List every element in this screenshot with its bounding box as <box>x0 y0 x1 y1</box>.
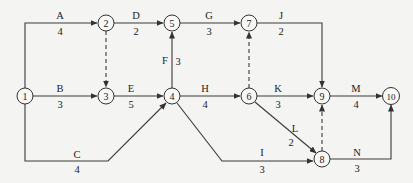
label-A-name: A <box>56 10 64 21</box>
label-L-name: L <box>292 123 298 134</box>
node-8: 8 <box>314 151 330 167</box>
label-L-duration: 2 <box>288 137 293 148</box>
svg-text:9: 9 <box>320 91 325 102</box>
svg-text:4: 4 <box>170 91 175 102</box>
label-M-name: M <box>351 83 361 94</box>
diagram-canvas: A 4 B 3 C 4 D 2 E 5 F 3 G 3 H 4 I 3 J 2 … <box>0 0 413 183</box>
label-C-name: C <box>73 149 80 160</box>
node-7: 7 <box>241 15 257 31</box>
edge-L <box>255 102 316 153</box>
svg-text:5: 5 <box>170 18 175 29</box>
label-I-name: I <box>260 147 264 158</box>
label-G-duration: 3 <box>206 26 211 37</box>
label-G-name: G <box>205 10 213 21</box>
label-N-duration: 3 <box>354 163 359 174</box>
svg-text:1: 1 <box>23 91 28 102</box>
svg-text:6: 6 <box>247 91 252 102</box>
label-J-name: J <box>279 10 283 21</box>
label-D-duration: 2 <box>133 26 138 37</box>
node-2: 2 <box>98 15 114 31</box>
label-B-duration: 3 <box>57 99 62 110</box>
label-H-duration: 4 <box>202 99 208 110</box>
svg-text:8: 8 <box>320 154 325 165</box>
edge-C <box>25 103 166 161</box>
label-F-duration: 3 <box>175 56 180 67</box>
node-6: 6 <box>241 88 257 104</box>
node-1: 1 <box>17 88 33 104</box>
label-D-name: D <box>132 10 140 21</box>
node-5: 5 <box>164 15 180 31</box>
label-B-name: B <box>56 83 63 94</box>
label-H-name: H <box>201 83 209 94</box>
network-diagram: A 4 B 3 C 4 D 2 E 5 F 3 G 3 H 4 I 3 J 2 … <box>0 0 413 183</box>
label-J-duration: 2 <box>278 26 283 37</box>
edge-J <box>257 23 322 87</box>
svg-text:2: 2 <box>104 18 109 29</box>
label-K-duration: 3 <box>275 99 280 110</box>
label-E-duration: 5 <box>128 99 133 110</box>
svg-text:10: 10 <box>387 92 397 102</box>
node-9: 9 <box>314 88 330 104</box>
svg-text:3: 3 <box>104 91 109 102</box>
label-F-name: F <box>162 55 168 66</box>
svg-text:7: 7 <box>247 18 252 29</box>
node-3: 3 <box>98 88 114 104</box>
label-A-duration: 4 <box>57 26 63 37</box>
node-10: 10 <box>383 88 400 105</box>
label-I-duration: 3 <box>259 164 264 175</box>
label-C-duration: 4 <box>74 164 80 175</box>
label-E-name: E <box>128 83 134 94</box>
label-K-name: K <box>274 83 282 94</box>
label-N-name: N <box>353 147 361 158</box>
node-4: 4 <box>164 88 180 104</box>
label-M-duration: 4 <box>353 99 359 110</box>
